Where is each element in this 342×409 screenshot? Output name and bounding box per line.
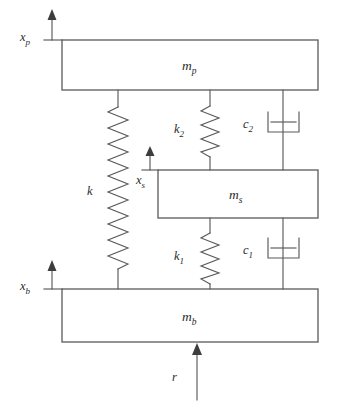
coordinate-arrow-xp xyxy=(44,9,62,40)
input-arrow-r xyxy=(192,343,202,400)
diagram-canvas: mp ms mb k k2 k1 c2 c1 xp xs x xyxy=(0,0,342,409)
mechanical-system-diagram: mp ms mb k k2 k1 c2 c1 xp xs x xyxy=(0,0,342,409)
damper-label-c2: c2 xyxy=(243,117,254,134)
spring-label-k1: k1 xyxy=(174,249,184,266)
coordinate-arrow-xb xyxy=(44,260,62,289)
spring-k2 xyxy=(201,90,219,170)
input-label-r: r xyxy=(172,370,177,384)
coordinate-label-xp: xp xyxy=(19,30,31,47)
coordinate-arrow-xs xyxy=(142,146,158,170)
damper-c1 xyxy=(268,218,299,289)
coordinate-label-xs: xs xyxy=(135,173,146,190)
damper-c2 xyxy=(268,90,299,170)
spring-k xyxy=(108,90,128,289)
spring-label-k: k xyxy=(87,184,93,198)
coordinate-label-xb: xb xyxy=(19,279,31,296)
spring-label-k2: k2 xyxy=(174,122,185,139)
spring-k1 xyxy=(201,218,219,289)
damper-label-c1: c1 xyxy=(243,243,253,260)
